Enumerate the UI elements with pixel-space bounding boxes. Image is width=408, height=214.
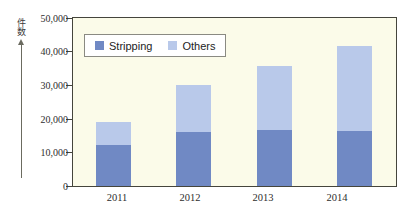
legend-swatch-others bbox=[168, 41, 177, 50]
x-tick-label-2014: 2014 bbox=[327, 192, 348, 203]
bar-segment-2012-others bbox=[176, 85, 211, 132]
legend-swatch-stripping bbox=[95, 41, 104, 50]
bar-segment-2014-others bbox=[337, 46, 372, 131]
legend-label-stripping: Stripping bbox=[109, 40, 152, 52]
y-tick-label-0: 0 bbox=[4, 181, 68, 192]
chart-legend: Stripping Others bbox=[84, 34, 226, 57]
stacked-bar-chart-figure: 件数 50,000 40,000 30,000 20,000 10,000 0 … bbox=[0, 0, 408, 214]
bar-segment-2011-others bbox=[96, 122, 131, 145]
bar-group-2012 bbox=[176, 85, 211, 186]
legend-item-others: Others bbox=[168, 40, 215, 52]
y-tick-label-10000: 10,000 bbox=[4, 147, 68, 158]
bar-group-2013 bbox=[257, 66, 292, 186]
y-tick-label-50000: 50,000 bbox=[4, 12, 68, 23]
bar-segment-2013-stripping bbox=[257, 130, 292, 186]
bar-group-2011 bbox=[96, 122, 131, 186]
bar-segment-2014-stripping bbox=[337, 131, 372, 186]
legend-label-others: Others bbox=[182, 40, 215, 52]
y-tick-label-20000: 20,000 bbox=[4, 113, 68, 124]
bar-segment-2012-stripping bbox=[176, 132, 211, 186]
y-tick-label-40000: 40,000 bbox=[4, 46, 68, 57]
x-tick-label-2012: 2012 bbox=[180, 192, 201, 203]
bar-group-2014 bbox=[337, 46, 372, 186]
bar-segment-2011-stripping bbox=[96, 145, 131, 186]
bar-segment-2013-others bbox=[257, 66, 292, 129]
x-tick-label-2013: 2013 bbox=[253, 192, 274, 203]
x-tick-label-2011: 2011 bbox=[107, 192, 128, 203]
y-tick-label-30000: 30,000 bbox=[4, 79, 68, 90]
legend-item-stripping: Stripping bbox=[95, 40, 152, 52]
